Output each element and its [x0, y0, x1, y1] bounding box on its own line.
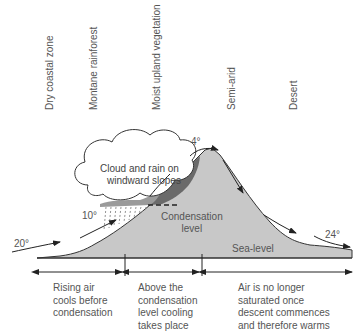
temp-condensation: 10° — [82, 210, 97, 222]
stage-description-descent: Air is no longer saturated once descent … — [238, 282, 330, 332]
stage-1-line-1: Rising air — [53, 282, 113, 295]
cloud-label-line2: windward slopes — [98, 175, 181, 187]
stage-3-line-1: Air is no longer — [238, 282, 330, 295]
stage-2-line-3: level cooling — [138, 307, 198, 320]
stage-1-line-2: cools before — [53, 295, 113, 308]
stage-3-line-4: and therefore warms — [238, 320, 330, 332]
temp-end: 24° — [325, 229, 340, 241]
temp-summit: 4° — [191, 136, 201, 148]
stage-description-rising: Rising air cools before condensation — [53, 282, 113, 320]
condensation-label-line1: Condensation — [161, 211, 223, 223]
stage-1-line-3: condensation — [53, 307, 113, 320]
cloud-label: Cloud and rain on windward slopes — [98, 163, 181, 187]
stage-description-above-condensation: Above the condensation level cooling tak… — [138, 282, 198, 332]
stage-2-line-1: Above the — [138, 282, 198, 295]
cloud-label-line1: Cloud and rain on — [98, 163, 181, 175]
stage-3-line-3: descent commences — [238, 307, 330, 320]
temp-start: 20° — [14, 238, 29, 250]
stage-3-line-2: saturated once — [238, 295, 330, 308]
sea-level-label: Sea-level — [232, 243, 274, 255]
stage-2-line-2: condensation — [138, 295, 198, 308]
condensation-label: Condensation level — [161, 211, 223, 235]
condensation-label-line2: level — [161, 223, 223, 235]
stage-2-line-4: takes place — [138, 320, 198, 332]
